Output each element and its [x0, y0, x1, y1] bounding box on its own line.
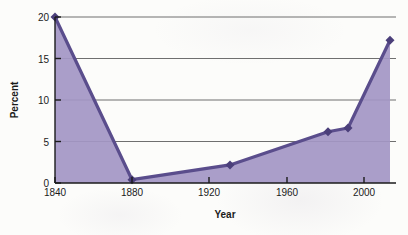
area-chart-plot: 20 15 10 5 0 1840 1880 1920 1960 2000 Ye… — [0, 0, 408, 235]
y-tick-label-10: 10 — [38, 95, 50, 106]
x-tick-labels: 1840 1880 1920 1960 2000 — [44, 187, 376, 198]
x-tick-label-1920: 1920 — [198, 187, 221, 198]
x-tick-label-1960: 1960 — [276, 187, 299, 198]
y-tick-label-20: 20 — [38, 12, 50, 23]
y-tick-label-5: 5 — [43, 137, 49, 148]
x-tick-label-2000: 2000 — [353, 187, 376, 198]
x-tick-label-1880: 1880 — [121, 187, 144, 198]
x-axis-title: Year — [214, 209, 235, 220]
y-tick-labels: 20 15 10 5 0 — [38, 12, 50, 189]
chart-figure: 20 15 10 5 0 1840 1880 1920 1960 2000 Ye… — [0, 0, 408, 235]
y-tick-label-15: 15 — [38, 54, 50, 65]
x-tick-label-1840: 1840 — [44, 187, 67, 198]
y-axis-title: Percent — [9, 81, 20, 118]
